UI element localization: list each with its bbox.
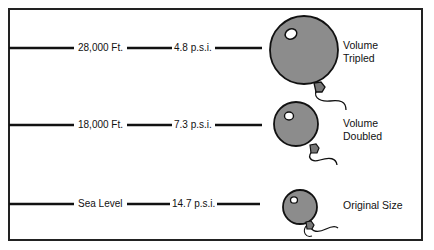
description-line-2: Tripled (343, 52, 378, 65)
altitude-label-sea-level: Sea Level (76, 198, 124, 210)
altitude-label-18000: 18,000 Ft. (76, 119, 125, 131)
pressure-label-14-7: 14.7 p.s.i. (170, 198, 217, 210)
altitude-label-28000: 28,000 Ft. (76, 42, 125, 54)
description-line-1: Volume (343, 39, 378, 52)
description-line-1: Volume (343, 117, 382, 130)
balloon-small-icon (283, 190, 338, 236)
description-line-1: Original Size (343, 199, 403, 212)
description-volume-tripled: Volume Tripled (343, 39, 378, 65)
pressure-label-4-8: 4.8 p.s.i. (172, 42, 214, 54)
description-original-size: Original Size (343, 199, 403, 212)
pressure-label-7-3: 7.3 p.s.i. (172, 119, 214, 131)
description-volume-doubled: Volume Doubled (343, 117, 382, 143)
description-line-2: Doubled (343, 130, 382, 143)
balloon-medium-icon (274, 102, 337, 165)
balloon-large-icon (270, 16, 346, 110)
